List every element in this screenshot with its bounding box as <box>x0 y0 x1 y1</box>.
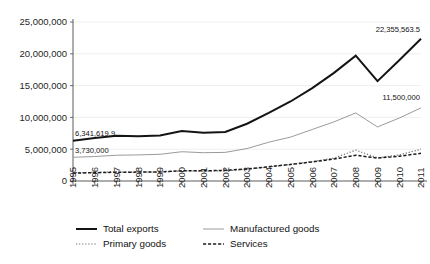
x-tick-label: 2007 <box>328 167 339 188</box>
x-tick-label: 2004 <box>263 167 274 188</box>
x-tick-label: 2009 <box>372 167 383 188</box>
x-tick-label: 2005 <box>285 167 296 188</box>
chart-canvas: 05,000,00010,000,00015,000,00020,000,000… <box>0 0 430 264</box>
legend-label-manufactured-goods: Manufactured goods <box>230 223 319 234</box>
legend-label-total-exports: Total exports <box>103 223 159 234</box>
y-tick-label: 0 <box>62 175 67 186</box>
legend-label-services: Services <box>230 238 268 249</box>
x-tick-label: 2001 <box>198 167 209 188</box>
x-tick-label: 1998 <box>133 167 144 188</box>
legend: Total exportsManufactured goodsPrimary g… <box>76 223 319 249</box>
x-axis: 1995199619971998199920002001200220032004… <box>67 167 427 188</box>
data-point-label: 11,500,000 <box>383 93 420 102</box>
series-line-manufactured-goods <box>73 108 421 157</box>
x-tick-label: 1999 <box>154 167 165 188</box>
data-point-label: 3,730,000 <box>75 146 109 155</box>
series-group <box>73 39 421 173</box>
x-tick-label: 2003 <box>241 167 252 188</box>
line-chart: 05,000,00010,000,00015,000,00020,000,000… <box>0 0 430 264</box>
y-tick-label: 25,000,000 <box>19 16 67 27</box>
y-tick-label: 15,000,000 <box>19 80 67 91</box>
x-tick-label: 2011 <box>415 168 426 188</box>
x-tick-label: 2010 <box>394 167 405 188</box>
y-tick-label: 5,000,000 <box>25 144 67 155</box>
x-tick-label: 1995 <box>67 167 78 188</box>
gridlines-group <box>73 22 421 149</box>
x-tick-label: 2006 <box>307 167 318 188</box>
y-axis: 05,000,00010,000,00015,000,00020,000,000… <box>19 16 73 186</box>
data-point-label: 6,341,619.9 <box>75 129 115 138</box>
x-tick-label: 1997 <box>111 167 122 188</box>
data-point-label: 22,355,563.5 <box>376 25 420 34</box>
x-tick-label: 2008 <box>350 167 361 188</box>
x-tick-label: 1996 <box>89 167 100 188</box>
y-tick-label: 10,000,000 <box>19 112 67 123</box>
y-tick-label: 20,000,000 <box>19 48 67 59</box>
legend-label-primary-goods: Primary goods <box>103 238 166 249</box>
